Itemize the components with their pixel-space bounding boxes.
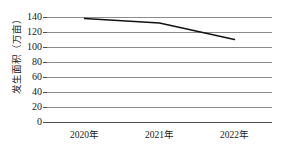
- x-axis-tick-label: 2022年: [220, 127, 249, 141]
- y-axis-tick-label: 60: [32, 72, 42, 82]
- y-axis-tick-mark: [43, 122, 47, 123]
- y-axis-tick-label: 40: [32, 87, 42, 97]
- y-axis-tick-label: 80: [32, 57, 42, 67]
- y-axis-tick-label: 120: [27, 27, 42, 37]
- x-axis-tick-label: 2020年: [70, 127, 99, 141]
- y-axis-title: 发生面积（万亩）: [9, 4, 25, 104]
- y-axis-tick-label: 20: [32, 102, 42, 112]
- x-axis-tick-label: 2021年: [145, 127, 174, 141]
- y-axis-tick-label: 0: [37, 117, 42, 127]
- plot-area: 020406080100120140 2020年2021年2022年: [47, 17, 272, 122]
- y-axis-tick-label: 140: [27, 12, 42, 22]
- series-line-group: [47, 17, 272, 122]
- y-axis-tick-label: 100: [27, 42, 42, 52]
- x-axis-line: [47, 122, 272, 123]
- series-line-occurrence-area: [85, 19, 235, 40]
- line-chart: 发生面积（万亩） 020406080100120140 2020年2021年20…: [0, 0, 285, 161]
